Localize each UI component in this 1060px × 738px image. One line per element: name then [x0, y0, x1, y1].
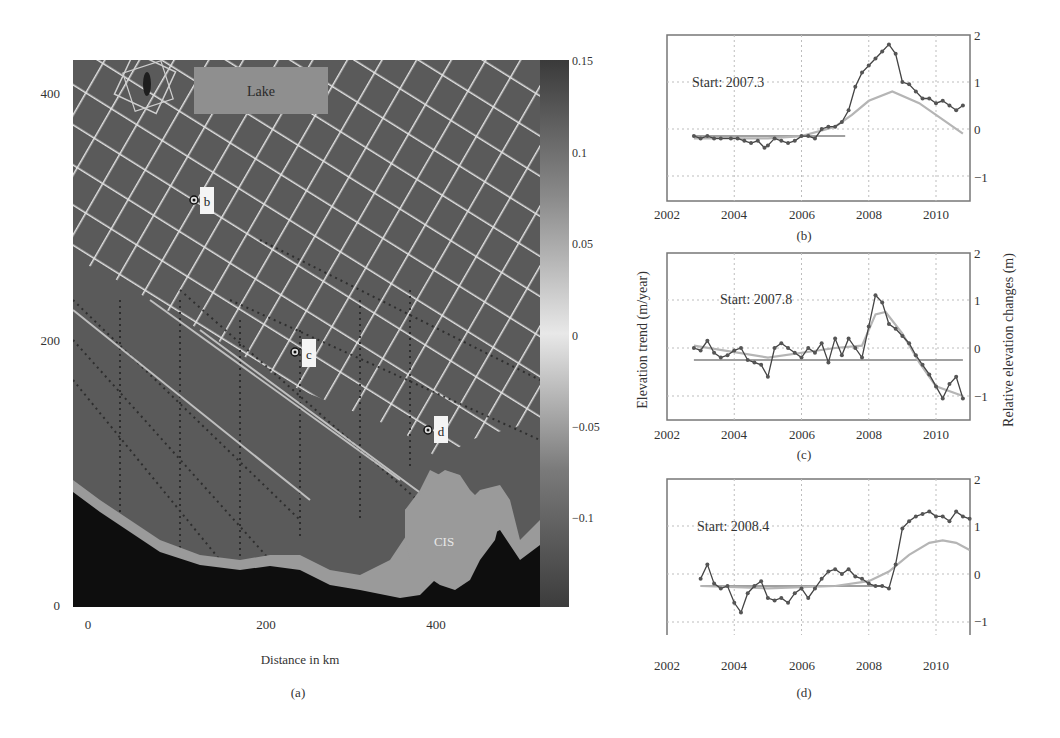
data-point — [840, 572, 844, 576]
data-point — [867, 324, 871, 328]
svg-text:−1: −1 — [974, 614, 988, 629]
data-point — [699, 136, 703, 140]
data-point — [880, 49, 884, 53]
chart-c-x-ticks: 2002 2004 2006 2008 2010 — [654, 427, 949, 442]
data-point — [907, 341, 911, 345]
data-point — [853, 85, 857, 89]
data-point — [756, 139, 760, 143]
svg-text:0.15: 0.15 — [572, 54, 593, 68]
data-point — [742, 139, 746, 143]
panel-d-caption: (d) — [796, 685, 811, 700]
data-point — [847, 567, 851, 571]
svg-text:2002: 2002 — [654, 658, 680, 673]
svg-text:0: 0 — [974, 567, 981, 582]
data-point — [820, 577, 824, 581]
map-figure: Lake CIS b c d — [0, 0, 600, 738]
data-point — [887, 586, 891, 590]
data-point — [833, 125, 837, 129]
data-point — [941, 99, 945, 103]
svg-text:c: c — [306, 347, 312, 362]
data-point — [894, 562, 898, 566]
data-point — [752, 360, 756, 364]
svg-text:2008: 2008 — [856, 427, 882, 442]
map-x-ticks: 0 200 400 — [85, 617, 446, 632]
data-point — [813, 586, 817, 590]
data-point — [867, 582, 871, 586]
svg-text:2: 2 — [974, 246, 981, 261]
data-point — [726, 584, 730, 588]
chart-d-annotation: Start: 2008.4 — [697, 519, 769, 534]
chart-c: Start: 2007.8 2 1 0 −1 2002 2004 2006 20… — [635, 246, 1017, 462]
data-point — [900, 526, 904, 530]
data-point — [786, 346, 790, 350]
svg-text:2008: 2008 — [856, 658, 882, 673]
data-point — [860, 356, 864, 360]
colorbar-ticks: 0.15 0.1 0.05 0 −0.05 −0.1 — [572, 54, 600, 525]
chart-b: Start: 2007.3 2 1 0 −1 2002 2004 2006 20… — [654, 28, 988, 243]
data-point — [947, 382, 951, 386]
data-point — [699, 577, 703, 581]
data-point — [729, 136, 733, 140]
panel-c-caption: (c) — [797, 447, 811, 462]
data-point — [800, 586, 804, 590]
data-point — [736, 136, 740, 140]
data-point — [793, 351, 797, 355]
data-point — [726, 353, 730, 357]
data-point — [927, 96, 931, 100]
data-point — [746, 358, 750, 362]
data-point — [773, 598, 777, 602]
svg-text:2004: 2004 — [721, 427, 748, 442]
data-point — [968, 517, 972, 521]
time-series-panels: Start: 2007.3 2 1 0 −1 2002 2004 2006 20… — [600, 0, 1060, 738]
data-point — [840, 353, 844, 357]
data-point — [894, 52, 898, 56]
svg-text:0.1: 0.1 — [572, 146, 587, 160]
data-point — [820, 127, 824, 131]
data-point — [763, 146, 767, 150]
svg-text:2010: 2010 — [923, 658, 949, 673]
data-point — [954, 510, 958, 514]
data-point — [880, 584, 884, 588]
data-point — [826, 360, 830, 364]
data-point — [779, 341, 783, 345]
chart-d-right-ticks: 2 1 0 −1 — [974, 472, 988, 629]
svg-text:200: 200 — [41, 333, 61, 348]
data-point — [752, 584, 756, 588]
panel-a-map: Lake CIS b c d — [0, 0, 600, 738]
chart-c-annotation: Start: 2007.8 — [720, 292, 792, 307]
data-point — [806, 596, 810, 600]
data-point — [873, 57, 877, 61]
data-point — [712, 351, 716, 355]
data-point — [779, 139, 783, 143]
data-point — [853, 346, 857, 350]
svg-text:2: 2 — [974, 472, 981, 487]
data-point — [705, 562, 709, 566]
data-point — [826, 125, 830, 129]
svg-text:2010: 2010 — [923, 207, 949, 222]
data-point — [914, 89, 918, 93]
svg-text:b: b — [204, 194, 211, 209]
data-point — [853, 574, 857, 578]
data-point — [773, 346, 777, 350]
left-y-axis-label: Elevation trend (m/year) — [635, 271, 651, 409]
svg-text:0: 0 — [572, 329, 578, 343]
svg-text:0: 0 — [974, 341, 981, 356]
data-point — [833, 567, 837, 571]
chart-b-annotation: Start: 2007.3 — [692, 75, 764, 90]
data-point — [961, 514, 965, 518]
svg-text:2006: 2006 — [789, 207, 816, 222]
svg-text:0: 0 — [974, 122, 981, 137]
data-point — [759, 579, 763, 583]
data-point — [766, 375, 770, 379]
data-point — [873, 293, 877, 297]
data-point — [813, 351, 817, 355]
data-point — [927, 510, 931, 514]
svg-text:0: 0 — [54, 598, 61, 613]
data-point — [860, 577, 864, 581]
data-point — [840, 120, 844, 124]
data-point — [947, 104, 951, 108]
data-point — [826, 570, 830, 574]
svg-text:1: 1 — [974, 519, 981, 534]
data-point — [746, 591, 750, 595]
data-point — [806, 134, 810, 138]
